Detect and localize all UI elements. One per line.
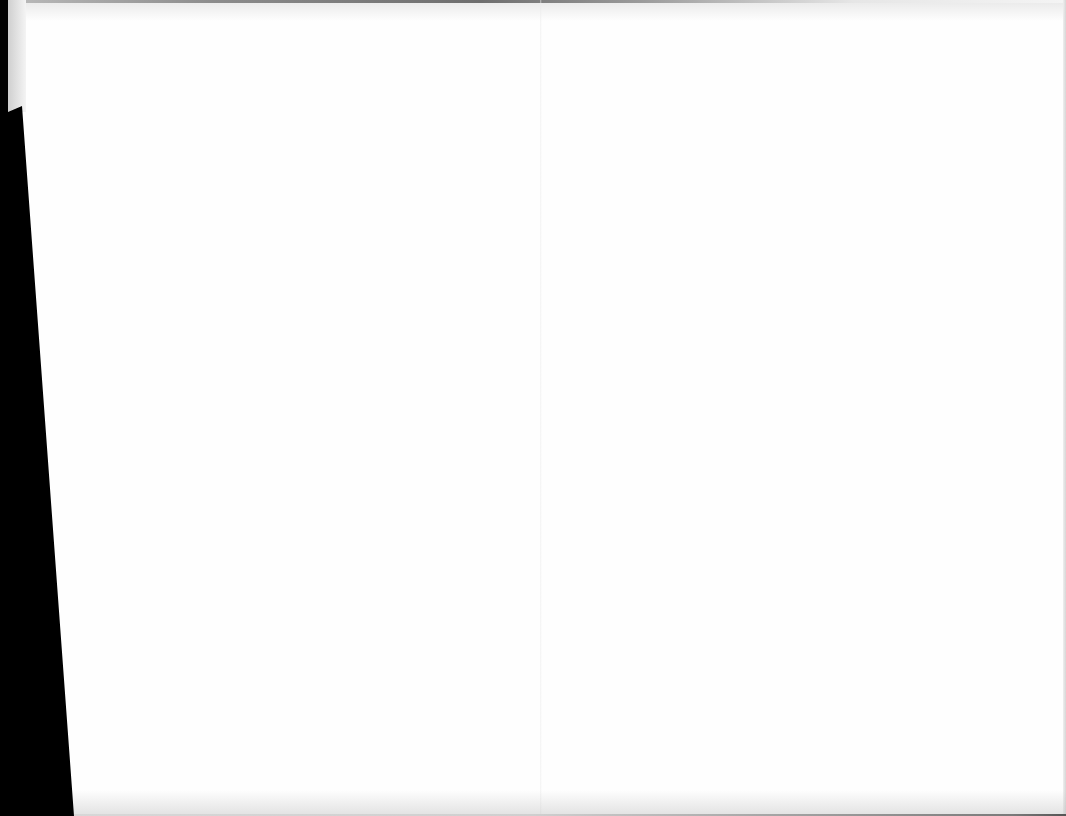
blank-page (0, 0, 1066, 816)
bottom-edge-shadow (0, 790, 1066, 816)
center-fold-line (540, 0, 542, 816)
scanned-document (0, 0, 1066, 816)
top-edge-shadow (0, 3, 1066, 21)
left-edge-shadow (8, 0, 26, 112)
